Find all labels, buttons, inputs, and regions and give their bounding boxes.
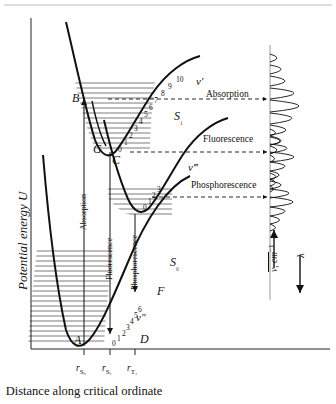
wavelength-axis-label: λ [295,253,306,258]
point-label-f: F [157,285,164,297]
absorption-spectrum-band [270,54,299,162]
vib-number: 0 [112,340,116,348]
vib-number: 3 [157,186,161,194]
point-label-b: B [72,92,79,104]
x-tick-label-rs0: rS₀ [76,364,86,376]
ground-state-potential-curve [43,155,190,346]
x-axis-ticks [84,349,135,355]
singlet-excited-potential-curve [66,22,200,155]
vib-number: 0 [118,146,122,154]
potential-energy-diagram: Potential energy U Distance along critic… [0,0,336,404]
vib-number: 6 [149,104,153,112]
spectrum-label-phosphorescence: Phosphorescence [191,181,256,191]
spectrum-label-fluorescence: Fluorescence [203,135,253,145]
y-axis-label: Potential energy U [16,192,29,290]
x-tick-label-rs1: rS₁ [102,364,112,376]
x-tick-label-rt1: rT₁ [127,364,137,376]
phosphorescence-spectrum-band [270,173,293,231]
vib-number: 2 [129,132,133,140]
vib-number: 9 [168,83,172,91]
vib-number: 7 [154,97,158,105]
vib-number: 8 [161,90,165,98]
vib-number: 2 [152,192,156,200]
triplet-potential-curve [104,118,228,212]
point-label-c: C [112,154,120,166]
absorption-arrow-label: Absorption [80,194,88,230]
phosphorescence-arrow-label: Phosphorescence [131,235,139,290]
vib-number: 1 [124,139,128,147]
point-label-d: D [140,333,149,345]
point-label-a: A [74,334,81,346]
wavenumber-axis-label: ν, cm−1 [268,245,280,273]
vib-number: 5 [144,111,148,119]
vib-number: 1 [117,335,121,343]
fluorescence-arrow-label: Fluorescence [106,238,114,280]
vib-number: 10 [176,76,184,84]
vib-number: 4 [139,118,143,126]
vib-label-v-triple-prime: v‴ [188,162,198,173]
diagram-canvas [0,0,336,404]
state-label-s1: S₁ [174,110,183,125]
spectrum-label-absorption: Absorption [206,90,249,100]
vib-number: 0 [143,204,147,212]
vib-number: 6 [138,306,142,314]
state-label-s0: S₀ [170,256,179,271]
x-axis-caption: Distance along critical ordinate [6,385,163,398]
point-label-g: G [93,143,102,155]
vib-label-v-prime: v′ [196,76,203,87]
vib-number: 3 [134,125,138,133]
